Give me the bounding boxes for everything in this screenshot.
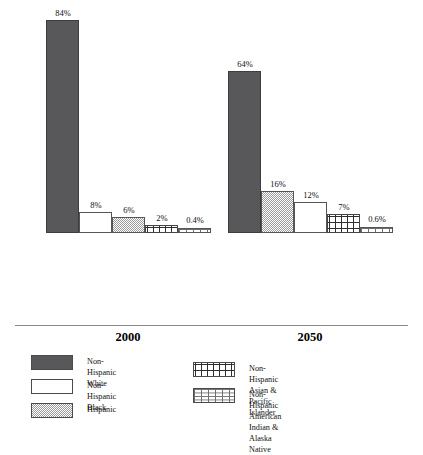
bar-value-label: 0.6% <box>347 214 407 224</box>
bar-rect <box>178 228 211 233</box>
legend-item-non-hispanic-american-indian-alaska-native[interactable]: Non-Hispanic American Indian & Alaska Na… <box>193 388 281 455</box>
bar-rect <box>79 212 112 233</box>
legend-swatch-non-hispanic-white <box>31 355 73 370</box>
bar-value-label: 64% <box>215 59 275 69</box>
legend-label: Hispanic <box>87 404 116 415</box>
bar-rect <box>360 227 393 233</box>
bar-value-label: 12% <box>281 190 341 200</box>
legend-item-hispanic[interactable]: Hispanic <box>31 403 116 418</box>
legend-swatch-non-hispanic-american-indian-alaska-native <box>193 388 235 403</box>
bar-rect <box>228 71 261 233</box>
x-axis-tick-2050: 2050 <box>265 330 355 345</box>
legend-label: Non-Hispanic American Indian & Alaska Na… <box>249 389 281 455</box>
bar-value-label: 7% <box>314 202 374 212</box>
x-axis-tick-2000: 2000 <box>83 330 173 345</box>
chart-legend: Non-Hispanic White Non-Hispanic Black Hi… <box>0 350 423 437</box>
x-axis-baseline <box>15 325 408 326</box>
bar-value-label: 16% <box>248 179 308 189</box>
bar-value-label: 84% <box>33 8 93 18</box>
legend-swatch-hispanic <box>31 403 73 418</box>
bar-value-label: 0.4% <box>165 215 225 225</box>
bar-rect <box>145 225 178 233</box>
legend-swatch-non-hispanic-asian-pacific-islander <box>193 362 235 377</box>
legend-swatch-non-hispanic-black <box>31 379 73 394</box>
bar-chart: 84% 8% 6% 2% 0.4% 2000 64% 16% <box>0 0 423 345</box>
